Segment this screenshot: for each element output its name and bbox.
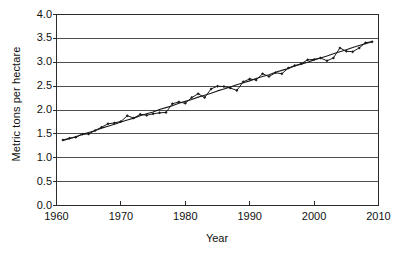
x-axis-tickmarks <box>121 201 314 206</box>
plot-area <box>0 0 402 257</box>
chart-figure: Metric tons per hectare Year 0.00.51.01.… <box>0 0 402 257</box>
data-series-layer <box>61 40 373 141</box>
